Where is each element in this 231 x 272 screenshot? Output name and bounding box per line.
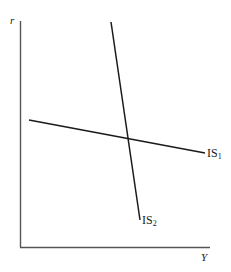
is2-curve	[111, 22, 140, 220]
is1-curve	[29, 120, 205, 153]
x-axis-label: Y	[201, 252, 207, 263]
is1-label-subscript: 1	[218, 152, 222, 161]
is-diagram: r Y IS1 IS2	[0, 0, 231, 272]
diagram-canvas	[0, 0, 231, 272]
is2-label-subscript: 2	[153, 219, 157, 228]
is2-label: IS2	[142, 214, 157, 228]
is1-label-name: IS	[207, 146, 218, 160]
is2-label-name: IS	[142, 213, 153, 227]
y-axis-label: r	[10, 15, 14, 26]
is1-label: IS1	[207, 147, 222, 161]
